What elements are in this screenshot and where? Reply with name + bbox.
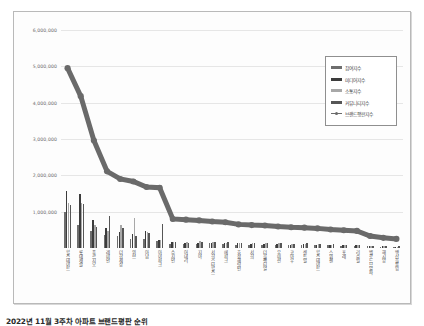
x-axis-label-text: 벨로드므알파 bbox=[368, 250, 373, 274]
y-axis-tick-label: 1,000,000 bbox=[33, 209, 57, 214]
bar-group bbox=[61, 30, 74, 248]
x-axis-label: 아이파크 bbox=[153, 250, 166, 302]
x-axis-label: 코아우 bbox=[285, 250, 298, 302]
x-axis-label-text: 수지인 bbox=[170, 250, 175, 262]
x-axis-label-text: 효성해링턴 bbox=[236, 250, 241, 270]
legend-item: 브랜드평판지수 bbox=[331, 108, 392, 120]
figure-caption: 2022년 11월 3주차 아파트 브랜드평판 순위 bbox=[6, 315, 148, 326]
x-axis-label-text: 레미안 bbox=[105, 250, 110, 262]
x-axis-label: 레미안 bbox=[100, 250, 113, 302]
bar-group bbox=[258, 30, 271, 248]
x-axis-label: 포레 bbox=[337, 250, 350, 302]
bar bbox=[214, 242, 216, 248]
x-axis-label-text: 어데리 bbox=[183, 250, 188, 262]
x-axis-label: 백산블루밍 bbox=[390, 250, 403, 302]
bar-group bbox=[285, 30, 298, 248]
x-axis-label-text: 포레 bbox=[341, 250, 346, 258]
bar bbox=[398, 246, 400, 248]
bar-group bbox=[153, 30, 166, 248]
legend-swatch-icon bbox=[331, 89, 342, 92]
y-axis-tick-label: 6,000,000 bbox=[33, 28, 57, 33]
legend-label: 커뮤니티지수 bbox=[345, 99, 369, 106]
bar-group bbox=[87, 30, 100, 248]
bar bbox=[280, 243, 282, 248]
bar-group bbox=[206, 30, 219, 248]
x-axis-label-text: 아남 bbox=[144, 250, 149, 258]
bar-group bbox=[245, 30, 258, 248]
x-axis-label-text: 푸르지오 bbox=[91, 250, 96, 266]
bar bbox=[359, 245, 361, 248]
x-axis-label-text: 우미린 bbox=[276, 250, 281, 262]
x-axis-label: 벨로드므알파 bbox=[364, 250, 377, 302]
bar bbox=[319, 244, 321, 248]
x-axis-label-text: 더블랜티얼 bbox=[262, 250, 267, 270]
chart-container: 6,000,0005,000,0004,000,0003,000,0002,00… bbox=[13, 11, 411, 304]
y-axis-tick-label: 5,000,000 bbox=[33, 64, 57, 69]
bar-group bbox=[179, 30, 192, 248]
x-axis-label-text: 위브 bbox=[131, 250, 136, 258]
legend-item: 커뮤니티지수 bbox=[331, 97, 392, 109]
legend-label: 소통지수 bbox=[345, 87, 361, 94]
bar-group bbox=[219, 30, 232, 248]
x-axis-label-text: 롯데캐슬 bbox=[78, 250, 83, 266]
bar bbox=[109, 216, 111, 248]
bar bbox=[83, 204, 85, 248]
x-axis-label: 해시앙 bbox=[377, 250, 390, 302]
x-axis-label: 힐스테이트 bbox=[61, 250, 74, 302]
legend-item: 소통지수 bbox=[331, 85, 392, 97]
bar bbox=[346, 245, 348, 248]
legend-swatch-icon bbox=[331, 101, 342, 104]
x-axis-label: 수지인 bbox=[166, 250, 179, 302]
legend-label: 참여지수 bbox=[345, 64, 361, 71]
bar bbox=[96, 227, 98, 248]
x-axis-label: 센트럴 bbox=[298, 250, 311, 302]
bar bbox=[135, 236, 137, 248]
legend-swatch-icon bbox=[331, 78, 342, 81]
x-axis-label: 위브 bbox=[127, 250, 140, 302]
y-axis-tick-label: 2,000,000 bbox=[33, 173, 57, 178]
x-axis-label: 힐스테이트 bbox=[311, 250, 324, 302]
x-axis-label-text: 더한세상 bbox=[118, 250, 123, 266]
legend-label: 브랜드평판지수 bbox=[345, 110, 373, 117]
legend-item: 미디어지수 bbox=[331, 74, 392, 86]
bar bbox=[385, 246, 387, 248]
x-axis-label: 더한세상 bbox=[114, 250, 127, 302]
x-axis-label-text: 힐스테이트 bbox=[315, 250, 320, 270]
bar-group bbox=[114, 30, 127, 248]
x-axis-label: 에피크 bbox=[219, 250, 232, 302]
bar bbox=[175, 242, 177, 248]
x-axis-label: 어데리 bbox=[179, 250, 192, 302]
bar bbox=[333, 244, 335, 248]
bar bbox=[148, 233, 150, 248]
bar bbox=[162, 224, 164, 248]
y-axis-tick-label: 3,000,000 bbox=[33, 137, 57, 142]
bar bbox=[201, 242, 203, 248]
legend-swatch-icon bbox=[331, 66, 342, 69]
bar bbox=[227, 242, 229, 248]
x-axis-label-text: 아이파크 bbox=[157, 250, 162, 266]
y-axis-tick-label: 4,000,000 bbox=[33, 100, 57, 105]
x-axis-labels: 힐스테이트롯데캐슬푸르지오레미안더한세상위브아남아이파크수지인어데리지아서희스타… bbox=[61, 250, 403, 302]
bar bbox=[122, 228, 124, 248]
chart-legend: 참여지수미디어지수소통지수커뮤니티지수브랜드평판지수 bbox=[325, 56, 397, 126]
legend-label: 미디어지수 bbox=[345, 76, 365, 83]
x-axis-label-text: 스위첸 bbox=[328, 250, 333, 262]
x-axis-label: 서희스타힐스 bbox=[206, 250, 219, 302]
legend-item: 참여지수 bbox=[331, 62, 392, 74]
bar-group bbox=[232, 30, 245, 248]
bar bbox=[293, 244, 295, 248]
bar-group bbox=[272, 30, 285, 248]
x-axis-label-text: 서희스타힐스 bbox=[210, 250, 215, 274]
bar-group bbox=[166, 30, 179, 248]
bar-group bbox=[100, 30, 113, 248]
bar-group bbox=[127, 30, 140, 248]
bar-group bbox=[140, 30, 153, 248]
x-axis-label-text: 해시앙 bbox=[381, 250, 386, 262]
x-axis-label-text: 코아우 bbox=[289, 250, 294, 262]
bar bbox=[241, 243, 243, 248]
x-axis-label: 스위첸 bbox=[324, 250, 337, 302]
x-axis-label-text: 리슈빌 bbox=[355, 250, 360, 262]
bar-group bbox=[74, 30, 87, 248]
x-axis-label-text: 서희 bbox=[249, 250, 254, 258]
x-axis-label: 롯데캐슬 bbox=[74, 250, 87, 302]
